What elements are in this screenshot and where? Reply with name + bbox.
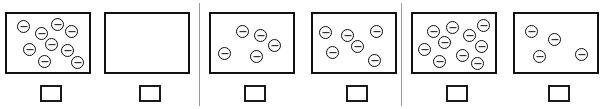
negative-charge-icon (254, 29, 267, 42)
negative-charge-icon (525, 25, 538, 38)
container-box-6 (513, 12, 599, 74)
negative-charge-icon (477, 19, 490, 32)
negative-charge-icon (35, 27, 48, 40)
answer-box-3[interactable] (244, 85, 266, 102)
negative-charge-icon (236, 25, 249, 38)
negative-charge-icon (65, 25, 78, 38)
negative-charge-icon (17, 20, 30, 33)
answer-box-2[interactable] (139, 85, 161, 102)
negative-charge-icon (456, 49, 469, 62)
negative-charge-icon (341, 29, 354, 42)
negative-charge-icon (268, 39, 281, 52)
negative-charge-icon (533, 50, 546, 63)
negative-charge-icon (418, 43, 431, 56)
negative-charge-icon (61, 44, 74, 57)
negative-charge-icon (427, 25, 440, 38)
negative-charge-icon (351, 40, 364, 53)
negative-charge-icon (51, 18, 64, 31)
negative-charge-icon (218, 47, 231, 60)
negative-charge-icon (575, 48, 588, 61)
negative-charge-icon (45, 38, 58, 51)
negative-charge-icon (38, 55, 51, 68)
negative-charge-icon (463, 29, 476, 42)
negative-charge-icon (250, 50, 263, 63)
container-box-1 (5, 12, 91, 74)
negative-charge-icon (23, 43, 36, 56)
answer-box-5[interactable] (446, 85, 468, 102)
container-box-3 (209, 12, 295, 74)
answer-box-1[interactable] (40, 85, 62, 102)
negative-charge-icon (548, 33, 561, 46)
negative-charge-icon (438, 36, 451, 49)
negative-charge-icon (319, 26, 332, 39)
container-box-4 (311, 12, 397, 74)
charge-comparison-worksheet (0, 0, 604, 109)
negative-charge-icon (471, 57, 484, 70)
negative-charge-icon (370, 25, 383, 38)
panel-divider-1 (199, 3, 200, 106)
container-box-5 (411, 12, 497, 74)
negative-charge-icon (433, 55, 446, 68)
container-box-2 (104, 12, 190, 74)
negative-charge-icon (475, 40, 488, 53)
answer-box-6[interactable] (548, 85, 570, 102)
negative-charge-icon (326, 46, 339, 59)
negative-charge-icon (71, 56, 84, 69)
negative-charge-icon (368, 54, 381, 67)
negative-charge-icon (446, 21, 459, 34)
answer-box-4[interactable] (346, 85, 368, 102)
panel-divider-2 (401, 3, 402, 106)
